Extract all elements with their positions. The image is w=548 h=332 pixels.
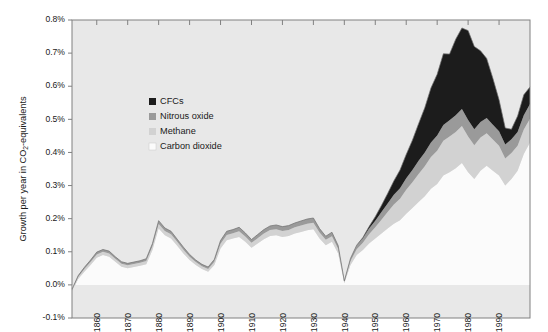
y-tick-label: 0.3% [45, 180, 65, 190]
stacked-area-chart: 0.8%0.7%0.6%0.5%0.4%0.3%0.2%0.1%0.0%-0.1… [0, 0, 548, 332]
y-axis-title: Growth per year in CO2-equivalents [18, 96, 29, 242]
legend-label-cfcs: CFCs [160, 96, 184, 106]
x-tick-label: 1900 [216, 313, 226, 332]
y-axis-title-text: Growth per year in CO2-equivalents [18, 96, 29, 242]
x-tick-label: 1930 [309, 313, 319, 332]
x-tick-label: 1880 [154, 313, 164, 332]
y-tick-label: 0.6% [45, 80, 65, 90]
y-tick-label: 0.8% [45, 14, 65, 24]
x-tick-label: 1870 [123, 313, 133, 332]
x-tick-label: 1860 [92, 313, 102, 332]
y-tick-label: -0.1% [43, 312, 66, 322]
x-tick-label: 1970 [432, 313, 442, 332]
legend-swatch-nitrous-oxide [149, 113, 156, 120]
y-tick-label: 0.2% [45, 213, 65, 223]
x-tick-label: 1890 [185, 313, 195, 332]
x-tick-label: 1960 [401, 313, 411, 332]
legend-swatch-carbon-dioxide [149, 143, 156, 150]
x-tick-label: 1990 [494, 313, 504, 332]
x-tick-label: 1940 [340, 313, 350, 332]
legend-label-carbon-dioxide: Carbon dioxide [160, 141, 222, 151]
y-tick-label: 0.7% [45, 47, 65, 57]
legend-label-nitrous-oxide: Nitrous oxide [160, 111, 214, 121]
y-tick-label: 0.5% [45, 114, 65, 124]
y-tick-label: 0.0% [45, 279, 65, 289]
legend-swatch-cfcs [149, 98, 156, 105]
x-tick-label: 1950 [370, 313, 380, 332]
legend-label-methane: Methane [160, 126, 196, 136]
chart-container: 0.8%0.7%0.6%0.5%0.4%0.3%0.2%0.1%0.0%-0.1… [0, 0, 548, 332]
y-tick-label: 0.4% [45, 147, 65, 157]
x-tick-label: 1980 [463, 313, 473, 332]
x-tick-label: 1910 [247, 313, 257, 332]
y-tick-label: 0.1% [45, 246, 65, 256]
x-tick-label: 1920 [278, 313, 288, 332]
legend-swatch-methane [149, 128, 156, 135]
